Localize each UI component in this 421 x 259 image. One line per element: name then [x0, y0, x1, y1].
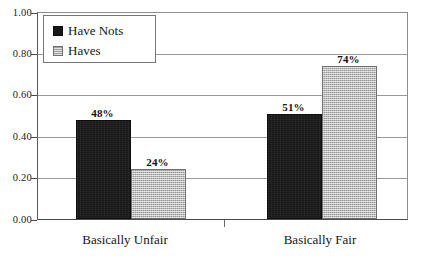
legend-label-haves: Haves [68, 44, 101, 58]
bar-unfair-have-nots [76, 120, 131, 219]
bar-value-label-unfair-have-nots: 48% [75, 107, 130, 119]
y-axis-tick-label-2: 0.80 [0, 49, 32, 59]
legend-label-have-nots: Have Nots [68, 24, 123, 38]
bar-chart-figure: 1.00 0.80 0.60 0.40 0.20 0.00 48% 24% 51… [0, 0, 421, 259]
legend-swatch-icon-have-nots [53, 26, 63, 36]
bar-unfair-haves [131, 169, 186, 219]
y-axis-tick-mark-6 [31, 220, 37, 221]
legend-swatch-icon-haves [53, 46, 63, 56]
y-axis-tick-label-6: 0.00 [0, 215, 32, 225]
y-axis-tick-label-3: 0.60 [0, 90, 32, 100]
bar-value-label-fair-haves: 74% [321, 53, 376, 65]
bar-fair-have-nots [267, 114, 322, 219]
legend-entry-have-nots: Have Nots [53, 21, 155, 40]
y-axis-tick-label-5: 0.20 [0, 173, 32, 183]
x-axis-category-separator-tick [224, 220, 225, 227]
legend: Have Nots Haves [43, 15, 156, 63]
y-axis-tick-label-4: 0.40 [0, 132, 32, 142]
x-axis-category-label-fair: Basically Fair [255, 232, 385, 247]
bar-fair-haves [322, 66, 377, 219]
bar-value-label-unfair-haves: 24% [130, 156, 185, 168]
x-axis-category-label-unfair: Basically Unfair [60, 232, 190, 247]
bar-value-label-fair-have-nots: 51% [266, 101, 321, 113]
y-axis-tick-label-1: 1.00 [0, 8, 32, 18]
legend-entry-haves: Haves [53, 41, 155, 60]
